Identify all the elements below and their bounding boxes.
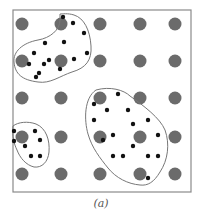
sample-dot bbox=[156, 133, 160, 137]
grid-dot bbox=[16, 18, 29, 31]
sample-dot bbox=[111, 154, 115, 158]
sample-dot bbox=[61, 15, 65, 19]
grid-dot bbox=[55, 18, 68, 31]
sample-dot bbox=[34, 75, 38, 79]
grid-dot bbox=[169, 18, 182, 31]
grid-dot bbox=[94, 55, 107, 68]
grid-dot bbox=[134, 92, 147, 105]
grid-dot bbox=[134, 18, 147, 31]
sample-dot bbox=[42, 62, 46, 66]
sample-dot bbox=[71, 21, 75, 25]
sample-dot bbox=[101, 138, 105, 142]
region-outline bbox=[13, 122, 49, 167]
sample-dot bbox=[111, 133, 115, 137]
sample-dot bbox=[32, 51, 36, 55]
sample-dot bbox=[38, 138, 42, 142]
grid-dot bbox=[134, 55, 147, 68]
sample-dot bbox=[58, 67, 62, 71]
sample-dot bbox=[47, 58, 51, 62]
grid-dot bbox=[55, 168, 68, 181]
grid-dot bbox=[55, 55, 68, 68]
sample-dot bbox=[126, 108, 130, 112]
sample-dot bbox=[116, 92, 120, 96]
grid-dot bbox=[169, 92, 182, 105]
sample-dot bbox=[12, 139, 16, 143]
sample-dot bbox=[23, 144, 27, 148]
grid-dot bbox=[169, 131, 182, 144]
sample-dot bbox=[105, 108, 109, 112]
figure-caption: (a) bbox=[0, 197, 202, 210]
sample-dot bbox=[146, 118, 150, 122]
sample-dot bbox=[29, 154, 33, 158]
grid-dot bbox=[55, 131, 68, 144]
dot-distribution-figure bbox=[0, 0, 202, 214]
sample-dot bbox=[92, 118, 96, 122]
sample-dot bbox=[43, 41, 47, 45]
sample-dot bbox=[85, 51, 89, 55]
grid-dot bbox=[134, 131, 147, 144]
region-bottom-left bbox=[12, 122, 49, 167]
sample-dot bbox=[62, 40, 66, 44]
grid-dot bbox=[16, 55, 29, 68]
sample-dot bbox=[27, 62, 31, 66]
grid-dot bbox=[16, 131, 29, 144]
sample-dot bbox=[146, 176, 150, 180]
sample-dot bbox=[121, 154, 125, 158]
grid-dot bbox=[16, 92, 29, 105]
grid-dot bbox=[134, 168, 147, 181]
grid-dot bbox=[94, 18, 107, 31]
grid-dot bbox=[94, 168, 107, 181]
sample-dot bbox=[33, 129, 37, 133]
sample-dot bbox=[37, 71, 41, 75]
sample-dot bbox=[12, 129, 16, 133]
sample-dot bbox=[72, 57, 76, 61]
grid-dot bbox=[55, 92, 68, 105]
sample-dot bbox=[38, 154, 42, 158]
grid-dot bbox=[169, 168, 182, 181]
sample-dot bbox=[131, 122, 135, 126]
grid-dot bbox=[16, 168, 29, 181]
sample-dot bbox=[131, 144, 135, 148]
grid-dot bbox=[169, 55, 182, 68]
sample-dot bbox=[82, 31, 86, 35]
sample-dot bbox=[146, 154, 150, 158]
sample-dot bbox=[156, 154, 160, 158]
sample-dot bbox=[92, 102, 96, 106]
